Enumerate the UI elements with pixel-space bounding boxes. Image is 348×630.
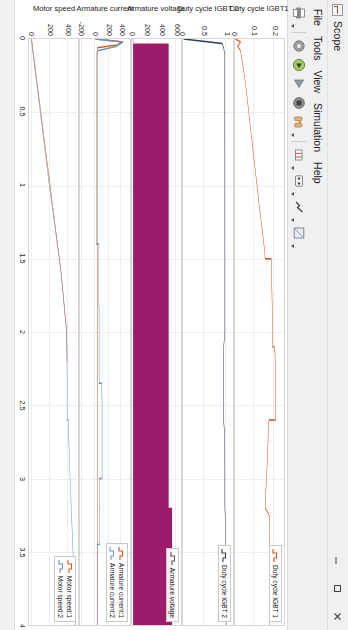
duty-cycle-igbt1-legend: Duty cycle IGBT 1: [269, 545, 282, 622]
print-caret-icon[interactable]: [288, 22, 311, 29]
menu-tools[interactable]: Tools: [312, 31, 326, 66]
maximize-button[interactable]: [328, 574, 348, 602]
zoom-caret-icon[interactable]: [288, 216, 311, 223]
armature-voltage-yticks: 0 200 400 600: [131, 13, 182, 38]
duty-cycle-igbt1-yticks: 0 0.1 0.2: [234, 13, 285, 38]
x-axis: 0 0.5 1 1.5 2 2.5 3 3.5 4: [15, 2, 28, 626]
legend-item: Armature voltage: [168, 552, 177, 618]
armature-current-yticks: -200 0 200 400: [79, 13, 130, 38]
configuration-properties-icon[interactable]: [290, 36, 309, 55]
menu-bar: File Tools View Simulation Help: [310, 0, 327, 630]
duty-cycle-igbt2-yticks: 0 0.5 1: [182, 13, 233, 38]
legend-key-icon: [221, 549, 227, 562]
x-axis-ticks: 0 0.5 1 1.5 2 2.5 3 3.5 4: [15, 38, 28, 626]
zoom-icon[interactable]: [290, 197, 309, 216]
toolbar-separator-2: [292, 141, 307, 142]
duty-cycle-igbt2-plot: Duty cycle IGBT 2 0 0.5 1: [182, 2, 233, 626]
binoculars-icon[interactable]: [290, 112, 309, 131]
duty-cycle-igbt2-ylabel: Duty cycle IGBT 2: [182, 2, 233, 13]
duty-cycle-igbt1-axes[interactable]: Duty cycle IGBT 1: [234, 38, 285, 626]
motor-speed-axes[interactable]: Motor speed:1 Motor speed:2: [28, 38, 79, 626]
legend-item: Armature current:1: [117, 547, 126, 618]
print-icon[interactable]: [290, 3, 309, 22]
legend-key-icon: [170, 552, 176, 565]
menu-simulation[interactable]: Simulation: [312, 98, 326, 157]
legend-key-icon: [58, 560, 64, 573]
menu-file[interactable]: File: [312, 4, 326, 31]
binoculars-caret-icon[interactable]: [288, 131, 311, 138]
style-caret-icon[interactable]: [288, 242, 311, 249]
armature-current-trace: [80, 39, 129, 625]
run-icon[interactable]: [290, 55, 309, 74]
armature-voltage-ylabel: Armature voltage: [131, 2, 182, 13]
cursor-caret-icon[interactable]: [288, 164, 311, 171]
armature-current-ylabel: Armature current: [79, 2, 130, 13]
signal-statistics-icon[interactable]: [290, 171, 309, 190]
scope-icon: [332, 3, 345, 17]
armature-voltage-plot: Armature voltage 0 200 400 600: [131, 2, 182, 626]
motor-speed-ylabel: Motor speed: [28, 2, 79, 13]
stop-icon[interactable]: [290, 93, 309, 112]
legend-item: Duty cycle IGBT 2: [220, 549, 229, 618]
armature-voltage-legend: Armature voltage: [166, 548, 179, 622]
legend-item: Duty cycle IGBT 1: [271, 549, 280, 618]
toolbar-separator: [292, 32, 307, 33]
armature-voltage-trace: [132, 39, 181, 625]
armature-current-legend: Armature current:1 Armature current:2: [106, 543, 128, 622]
armature-current-axes[interactable]: Armature current:1 Armature current:2: [79, 38, 130, 626]
status-bar: [0, 0, 15, 630]
legend-key-icon: [109, 547, 115, 560]
close-button[interactable]: [328, 602, 348, 630]
menu-view[interactable]: View: [312, 65, 326, 98]
toolbar: [287, 0, 310, 630]
screenshot-frame: Scope File Tools View Simulation Help: [0, 0, 348, 630]
motor-speed-trace: [29, 39, 78, 625]
title-bar: Scope: [327, 0, 348, 630]
legend-item: Armature current:2: [108, 547, 117, 618]
legend-item: Motor speed:1: [65, 560, 74, 618]
step-forward-icon[interactable]: [290, 74, 309, 93]
scope-window: Scope File Tools View Simulation Help: [0, 0, 348, 630]
motor-speed-plot: Motor speed 0 200 400: [28, 2, 79, 626]
legend-key-icon: [118, 547, 124, 560]
window-title: Scope: [332, 21, 344, 51]
cursor-measurements-icon[interactable]: [290, 145, 309, 164]
armature-voltage-axes[interactable]: Armature voltage: [131, 38, 182, 626]
duty-cycle-igbt1-plot: Duty cycle IGBT1 0 0.1 0.2: [234, 2, 285, 626]
style-icon[interactable]: [290, 223, 309, 242]
minimize-button[interactable]: [328, 546, 348, 574]
duty-cycle-igbt2-legend: Duty cycle IGBT 2: [218, 545, 231, 622]
motor-speed-yticks: 0 200 400: [28, 13, 79, 38]
duty-cycle-igbt1-trace: [235, 39, 284, 625]
duty-cycle-igbt2-axes[interactable]: Duty cycle IGBT 2: [182, 38, 233, 626]
legend-item: Motor speed:2: [56, 560, 65, 618]
legend-key-icon: [67, 560, 73, 573]
duty-cycle-igbt1-ylabel: Duty cycle IGBT1: [234, 2, 285, 13]
stats-caret-icon[interactable]: [288, 190, 311, 197]
duty-cycle-igbt2-trace: [183, 39, 232, 625]
menu-help[interactable]: Help: [312, 157, 326, 189]
legend-key-icon: [273, 549, 279, 562]
armature-current-plot: Armature current -200 0 200 400: [79, 2, 130, 626]
motor-speed-legend: Motor speed:1 Motor speed:2: [54, 556, 76, 622]
plot-stack: Duty cycle IGBT1 0 0.1 0.2: [15, 0, 287, 630]
